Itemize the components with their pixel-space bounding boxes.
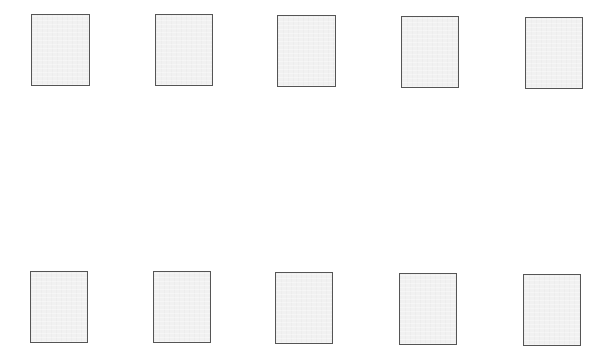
page-thumbnail[interactable] xyxy=(401,16,459,88)
page-thumbnail[interactable] xyxy=(277,15,336,87)
page-thumbnail[interactable] xyxy=(525,17,583,89)
page-thumbnail[interactable] xyxy=(155,14,213,86)
page-thumbnail[interactable] xyxy=(523,274,581,346)
page-thumbnail[interactable] xyxy=(30,271,88,343)
page-thumbnail[interactable] xyxy=(399,273,457,345)
page-thumbnail[interactable] xyxy=(153,271,211,343)
page-thumbnail[interactable] xyxy=(275,272,333,344)
page-thumbnail[interactable] xyxy=(31,14,90,86)
